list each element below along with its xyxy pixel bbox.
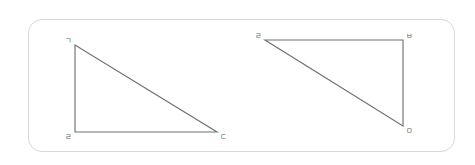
left-triangle-vertex-label-top-left: ㄱ — [65, 36, 72, 45]
left-triangle-outline — [75, 45, 217, 132]
right-triangle-vertex-label-bottom-right: ㅁ — [406, 126, 413, 135]
right-triangle-outline — [265, 40, 403, 126]
right-triangle: ㄹ ㅂ ㅁ — [255, 31, 413, 135]
right-triangle-vertex-label-top-right: ㅂ — [406, 31, 413, 40]
left-triangle: ㄱ ㄹ ㄷ — [65, 36, 227, 141]
right-triangle-vertex-label-top-left: ㄹ — [255, 31, 262, 40]
geometry-figure-svg: ㄱ ㄹ ㄷ ㄹ ㅂ ㅁ — [0, 0, 475, 165]
figure-canvas: ㄱ ㄹ ㄷ ㄹ ㅂ ㅁ — [0, 0, 475, 165]
left-triangle-vertex-label-bottom-right: ㄷ — [220, 132, 227, 141]
left-triangle-vertex-label-bottom-left: ㄹ — [65, 132, 72, 141]
